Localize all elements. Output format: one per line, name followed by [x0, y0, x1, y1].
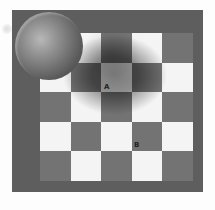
sphere [15, 12, 83, 80]
tile-2-3 [132, 92, 163, 122]
tile-3-0 [40, 122, 71, 152]
tile-4-1 [71, 151, 102, 181]
tile-0-3 [132, 33, 163, 63]
tile-4-0 [40, 151, 71, 181]
tile-2-4 [162, 92, 193, 122]
label-a: A [104, 84, 109, 91]
tile-3-2 [101, 122, 132, 152]
tile-1-4 [162, 63, 193, 93]
tile-4-2 [101, 151, 132, 181]
tile-2-0 [40, 92, 71, 122]
tile-0-4 [162, 33, 193, 63]
tile-4-3 [132, 151, 163, 181]
tile-2-1 [71, 92, 102, 122]
tile-3-1 [71, 122, 102, 152]
tile-0-2 [101, 33, 132, 63]
tile-3-4 [162, 122, 193, 152]
tile-2-2 [101, 92, 132, 122]
tile-4-4 [162, 151, 193, 181]
tile-1-3 [132, 63, 163, 93]
smudge [2, 24, 12, 34]
label-b: B [134, 142, 139, 149]
